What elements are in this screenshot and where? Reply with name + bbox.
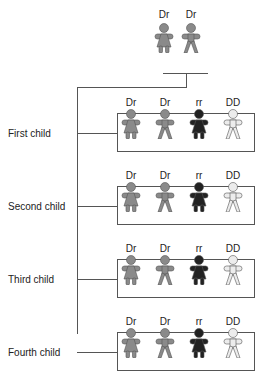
- child-genotype: Dr: [155, 243, 175, 254]
- female-figure-icon: [121, 109, 141, 139]
- child-branch: [77, 206, 117, 207]
- sibling-bar: [77, 87, 187, 88]
- descent-line-vertical: [186, 73, 187, 87]
- male-figure-icon: [155, 109, 175, 139]
- female-figure-icon: [189, 109, 209, 139]
- female-figure-icon: [121, 255, 141, 285]
- child-genotype: DD: [223, 316, 243, 327]
- child-genotype: Dr: [121, 170, 141, 181]
- female-figure-icon: [189, 328, 209, 358]
- child-genotype: rr: [189, 316, 209, 327]
- child-branch: [77, 133, 117, 134]
- male-figure-icon: [155, 182, 175, 212]
- female-figure-icon: [121, 182, 141, 212]
- parent-genotype-mother: Dr: [154, 9, 174, 20]
- father-icon: [181, 23, 201, 53]
- child-branch: [77, 279, 117, 280]
- child-genotype: DD: [223, 170, 243, 181]
- child-genotype: Dr: [155, 316, 175, 327]
- child-branch: [77, 352, 117, 353]
- child-genotype: DD: [223, 97, 243, 108]
- child-genotype: Dr: [121, 97, 141, 108]
- male-figure-icon: [223, 109, 243, 139]
- child-genotype: Dr: [121, 243, 141, 254]
- sibling-trunk: [77, 87, 78, 334]
- female-figure-icon: [121, 328, 141, 358]
- child-label: First child: [8, 128, 51, 139]
- child-genotype: rr: [189, 97, 209, 108]
- child-label: Third child: [8, 274, 54, 285]
- female-figure-icon: [189, 182, 209, 212]
- child-label: Fourth child: [8, 347, 60, 358]
- mother-icon: [154, 23, 174, 53]
- child-genotype: DD: [223, 243, 243, 254]
- parent-genotype-father: Dr: [181, 9, 201, 20]
- female-figure-icon: [189, 255, 209, 285]
- male-figure-icon: [223, 328, 243, 358]
- child-genotype: Dr: [155, 97, 175, 108]
- child-genotype: Dr: [155, 170, 175, 181]
- male-figure-icon: [155, 328, 175, 358]
- male-figure-icon: [223, 255, 243, 285]
- child-genotype: Dr: [121, 316, 141, 327]
- child-genotype: rr: [189, 243, 209, 254]
- child-label: Second child: [8, 201, 65, 212]
- child-genotype: rr: [189, 170, 209, 181]
- male-figure-icon: [155, 255, 175, 285]
- male-figure-icon: [223, 182, 243, 212]
